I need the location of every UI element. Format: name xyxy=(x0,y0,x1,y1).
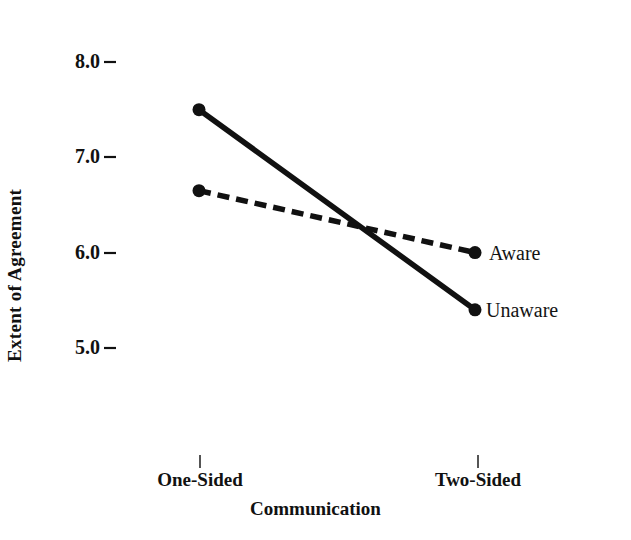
series-label-unaware: Unaware xyxy=(486,298,558,321)
y-tick-label-6: 6.0 xyxy=(44,241,100,264)
x-tick-label-two-sided: Two-Sided xyxy=(435,469,521,491)
chart-figure: 8.0 7.0 6.0 5.0 One-Sided Two-Sided Exte… xyxy=(0,0,631,540)
data-point-unaware-one-sided xyxy=(193,103,206,116)
y-tick-label-7: 7.0 xyxy=(44,145,100,168)
data-point-aware-two-sided xyxy=(469,246,482,259)
series-label-aware: Aware xyxy=(489,241,540,264)
y-axis-ticks xyxy=(104,62,116,348)
x-axis-ticks xyxy=(200,455,478,468)
y-tick-label-8: 8.0 xyxy=(44,50,100,73)
series-unaware-line xyxy=(199,110,475,310)
y-tick-label-5: 5.0 xyxy=(44,336,100,359)
data-point-aware-one-sided xyxy=(193,184,206,197)
x-tick-label-one-sided: One-Sided xyxy=(157,469,243,491)
series-aware-line xyxy=(199,191,475,253)
data-point-unaware-two-sided xyxy=(469,303,482,316)
series-aware xyxy=(193,184,482,259)
y-axis-title: Extent of Agreement xyxy=(4,189,26,362)
plot-area xyxy=(0,0,631,540)
x-axis-title: Communication xyxy=(0,498,631,520)
series-unaware xyxy=(193,103,482,316)
